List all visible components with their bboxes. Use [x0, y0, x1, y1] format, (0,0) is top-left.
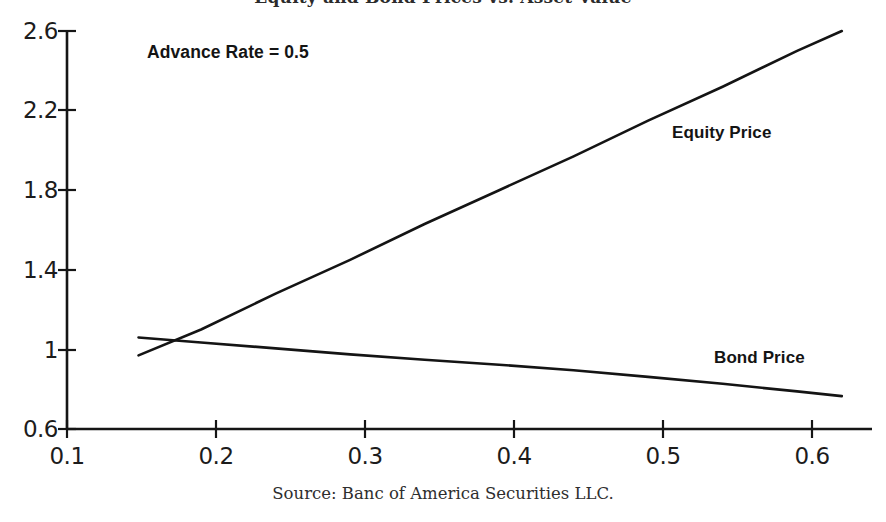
y-tick-label-1: 1 — [0, 337, 58, 363]
series-label-equity-price: Equity Price — [672, 123, 771, 143]
plot-area — [0, 0, 886, 470]
x-tick-label-0-3: 0.3 — [325, 443, 405, 469]
y-tick-label-1-4: 1.4 — [0, 257, 58, 283]
series-label-bond-price: Bond Price — [714, 348, 805, 368]
x-tick-label-0-5: 0.5 — [623, 443, 703, 469]
x-tick-label-0-4: 0.4 — [474, 443, 554, 469]
source-caption: Source: Banc of America Securities LLC. — [0, 484, 886, 503]
x-tick-label-0-1: 0.1 — [27, 443, 107, 469]
x-tick-label-0-2: 0.2 — [176, 443, 256, 469]
annotation-advance-rate: Advance Rate = 0.5 — [147, 42, 309, 63]
plot-svg — [0, 0, 886, 470]
y-tick-label-0-6: 0.6 — [0, 416, 58, 442]
series-line-equity-price — [139, 31, 842, 355]
x-tick-label-0-6: 0.6 — [772, 443, 852, 469]
chart-figure: Equity and Bond Prices vs. Asset Value — [0, 0, 886, 522]
y-tick-label-2-2: 2.2 — [0, 97, 58, 123]
y-tick-label-1-8: 1.8 — [0, 177, 58, 203]
y-tick-label-2-6: 2.6 — [0, 18, 58, 44]
